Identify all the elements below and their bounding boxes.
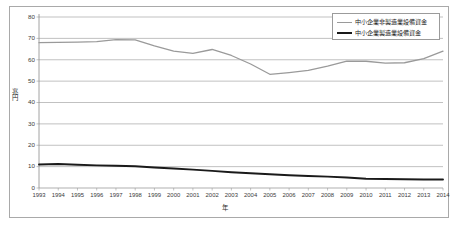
y-axis-tick-label: 80 xyxy=(13,14,35,20)
x-axis-title: 年 xyxy=(222,205,228,211)
y-axis-tick-label: 0 xyxy=(13,185,35,191)
chart-legend: 中小企業非製造業設備資金 中小企業製造業設備資金 xyxy=(332,13,440,40)
y-axis-tick-label: 20 xyxy=(13,142,35,148)
legend-entry-label: 中小企業非製造業設備資金 xyxy=(355,19,427,25)
y-axis-tick-label: 40 xyxy=(13,99,35,105)
legend-entry-nonmanufacturing: 中小企業非製造業設備資金 xyxy=(337,17,435,27)
y-axis-tick-label: 10 xyxy=(13,163,35,169)
y-axis-tick-label: 60 xyxy=(13,57,35,63)
x-axis-tick-label: 2014 xyxy=(432,193,454,199)
y-axis-tick-label: 30 xyxy=(13,121,35,127)
legend-line-swatch-icon xyxy=(337,22,352,23)
gridlines xyxy=(39,17,443,188)
y-axis-tick-label: 50 xyxy=(13,78,35,84)
legend-entry-label: 中小企業製造業設備資金 xyxy=(355,30,421,36)
series-line xyxy=(39,40,443,75)
y-axis-tick-label: 70 xyxy=(13,35,35,41)
legend-entry-manufacturing: 中小企業製造業設備資金 xyxy=(337,28,435,38)
legend-line-swatch-icon xyxy=(337,32,352,34)
y-axis-title: 兆円 xyxy=(11,88,17,100)
data-series xyxy=(39,40,443,180)
